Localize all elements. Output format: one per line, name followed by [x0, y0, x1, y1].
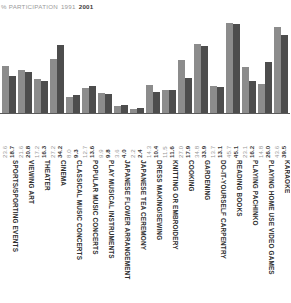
- value-label-group: 17.216.3: [33, 116, 49, 158]
- value-label: 13.1: [216, 146, 223, 158]
- bar-1991: [34, 79, 41, 113]
- bar-1991: [146, 85, 153, 113]
- bar-group: [33, 14, 49, 113]
- value-label-cell: 18.7: [9, 116, 16, 158]
- value-label: 26.0: [264, 146, 271, 158]
- value-label-cell: 33.9: [201, 116, 208, 158]
- bar-2001: [73, 95, 80, 113]
- value-label-group: 9.99.8: [97, 116, 113, 158]
- category-label: KARAOKE: [284, 160, 291, 193]
- value-label-cell: 17.9: [185, 116, 192, 158]
- category-label-cell: JAPANESE FLOWER ARRANGEMENT: [113, 160, 129, 300]
- bar-2001: [249, 81, 256, 113]
- value-label-cell: 9.3: [73, 116, 80, 158]
- value-label: 10.4: [152, 146, 159, 158]
- value-label-cell: 9.8: [105, 116, 112, 158]
- value-label: 34.2: [56, 146, 63, 158]
- bar-2001: [169, 90, 176, 113]
- value-label: 27.2: [49, 146, 56, 158]
- value-labels-row: 23.618.721.620.817.216.327.234.28.09.312…: [0, 116, 290, 158]
- category-label-cell: JAPANESE TEA CEREMONY: [129, 160, 145, 300]
- value-label-cell: 13.6: [89, 116, 96, 158]
- value-label: 39.5: [280, 146, 287, 158]
- bar-group: [97, 14, 113, 113]
- value-label: 23.1: [241, 146, 248, 158]
- bar-group: [193, 14, 209, 113]
- category-label-cell: PLAY MUSICAL INSTRUMENTS: [97, 160, 113, 300]
- bar-group: [241, 14, 257, 113]
- value-label-group: 23.618.7: [1, 116, 17, 158]
- value-label: 11.5: [161, 146, 168, 158]
- category-label-cell: PLAYING PACHINKO: [241, 160, 257, 300]
- bar-1991: [66, 97, 73, 113]
- value-label-group: 13.713.1: [209, 116, 225, 158]
- plot-area: [0, 14, 290, 113]
- value-label-group: 34.833.9: [193, 116, 209, 158]
- bar-2001: [153, 92, 160, 113]
- category-label-cell: COOKING: [177, 160, 193, 300]
- value-label: 3.6: [113, 149, 120, 158]
- category-label-cell: PLAYING HOME USE VIDEO GAMES: [257, 160, 273, 300]
- value-label-cell: 20.8: [25, 116, 32, 158]
- value-label-cell: 45.1: [233, 116, 240, 158]
- value-label-cell: 34.2: [57, 116, 64, 158]
- bar-1991: [18, 70, 25, 113]
- value-label: 14.8: [257, 146, 264, 158]
- category-label-cell: DRESS MAKING/SEWING: [145, 160, 161, 300]
- chart-title-legend: % PARTICIPATION 1991 2001: [1, 1, 93, 11]
- value-label-cell: 26.0: [265, 116, 272, 158]
- bar-group: [177, 14, 193, 113]
- value-label: 13.6: [88, 146, 95, 158]
- value-label: 11.6: [168, 146, 175, 158]
- value-label: 9.9: [97, 149, 104, 158]
- bar-1991: [114, 106, 121, 113]
- value-label: 17.9: [184, 146, 191, 158]
- bar-group: [257, 14, 273, 113]
- bar-2001: [233, 24, 240, 113]
- value-label: 14.3: [145, 146, 152, 158]
- value-label: 9.8: [104, 149, 111, 158]
- value-label-group: 2.22.4: [129, 116, 145, 158]
- value-label-group: 27.017.9: [177, 116, 193, 158]
- value-label-cell: 16.2: [249, 116, 256, 158]
- value-label-group: 8.09.3: [65, 116, 81, 158]
- category-label-cell: CINEMA: [49, 160, 65, 300]
- bar-1991: [194, 44, 201, 113]
- value-label-group: 23.116.2: [241, 116, 257, 158]
- value-label: 45.1: [232, 146, 239, 158]
- value-label: 23.6: [1, 146, 8, 158]
- category-label-cell: THEATER: [33, 160, 49, 300]
- bar-1991: [162, 90, 169, 113]
- bar-group: [1, 14, 17, 113]
- value-label-group: 12.713.6: [81, 116, 97, 158]
- value-label-cell: 10.4: [153, 116, 160, 158]
- category-label-cell: SPORTS/SPORTING EVENTS: [1, 160, 17, 300]
- value-label: 18.7: [8, 146, 15, 158]
- bar-group: [81, 14, 97, 113]
- value-label: 2.2: [129, 149, 136, 158]
- legend-item-2001: 2001: [79, 3, 94, 10]
- bar-2001: [25, 72, 32, 113]
- participation-bar-chart: % PARTICIPATION 1991 2001 23.618.721.620…: [0, 0, 290, 303]
- value-label-cell: 16.3: [41, 116, 48, 158]
- bar-2001: [105, 94, 112, 113]
- value-label-group: 3.64.0: [113, 116, 129, 158]
- value-label-cell: 13.1: [217, 116, 224, 158]
- value-label-cell: 39.5: [281, 116, 288, 158]
- bar-2001: [121, 105, 128, 113]
- bar-group: [209, 14, 225, 113]
- value-label: 16.3: [40, 146, 47, 158]
- chart-title: % PARTICIPATION: [1, 3, 58, 10]
- category-label-cell: VIEWING ART: [17, 160, 33, 300]
- bar-2001: [41, 81, 48, 113]
- bar-1991: [50, 59, 57, 113]
- bar-2001: [57, 45, 64, 113]
- bar-1991: [226, 23, 233, 113]
- bar-1991: [242, 67, 249, 113]
- value-label-cell: 4.0: [121, 116, 128, 158]
- value-label-group: 11.511.6: [161, 116, 177, 158]
- bar-1991: [258, 84, 265, 113]
- bar-group: [65, 14, 81, 113]
- bar-group: [129, 14, 145, 113]
- value-label: 20.8: [24, 146, 31, 158]
